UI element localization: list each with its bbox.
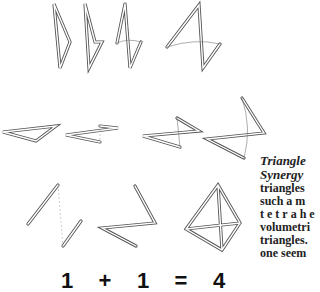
equation-term: 1	[48, 268, 86, 292]
row2-fig4	[207, 98, 264, 158]
row1-fig2	[85, 4, 102, 68]
equation-operator: +	[86, 268, 124, 292]
row3-fig2-zigzag	[102, 186, 155, 246]
row2-fig1	[3, 126, 56, 141]
equation-term: 1	[124, 268, 162, 292]
figure-caption: Triangle Synergy triangles such a m tetr…	[260, 154, 320, 260]
row1-fig4	[167, 5, 220, 68]
caption-title-line2: Synergy	[260, 168, 320, 182]
equation: 1+1=4	[48, 268, 238, 292]
equation-operator: =	[162, 268, 200, 292]
caption-line: one seem	[260, 247, 320, 260]
caption-title-line1: Triangle	[260, 154, 320, 168]
row2-fig2	[66, 126, 118, 142]
row3-fig1-two-rods	[28, 185, 81, 246]
row3-fig3-tetrahedron	[186, 185, 240, 250]
equation-term: 4	[200, 268, 238, 292]
row1-fig3	[117, 4, 141, 68]
row2-fig3	[143, 118, 199, 147]
row1-fig1	[54, 4, 70, 68]
